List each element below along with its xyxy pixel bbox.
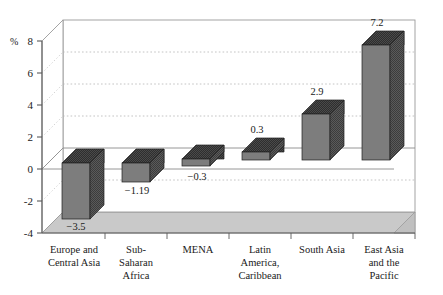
svg-text:East Asia: East Asia xyxy=(364,244,404,255)
bar-east-asia-pacific[interactable] xyxy=(362,31,404,160)
svg-text:South Asia: South Asia xyxy=(299,244,345,255)
y-tick-label: -4 xyxy=(24,227,34,239)
bar-value-label: −1.19 xyxy=(125,185,149,196)
y-tick-label: 4 xyxy=(28,99,34,111)
svg-text:Africa: Africa xyxy=(123,270,150,281)
svg-text:Caribbean: Caribbean xyxy=(238,270,282,281)
svg-text:Central Asia: Central Asia xyxy=(48,257,101,268)
bar-value-label: 0.3 xyxy=(250,124,263,135)
x-category-label-europe-central-asia: Europe and Central Asia xyxy=(48,244,101,268)
bar-south-asia[interactable] xyxy=(302,100,344,160)
x-category-label-latin-america-caribbean: Latin America, Caribbean xyxy=(238,244,282,281)
y-axis-unit-label: % xyxy=(10,36,18,47)
svg-text:America,: America, xyxy=(241,257,280,268)
bar-value-label: −3.5 xyxy=(66,221,85,232)
x-axis xyxy=(42,233,415,239)
y-tick-label: 6 xyxy=(28,67,34,79)
plot-floor xyxy=(42,212,415,233)
y-tick-label: 0 xyxy=(28,163,34,175)
x-category-labels: Europe and Central Asia Sub- Saharan Afr… xyxy=(48,244,404,281)
chart-svg: 8 6 4 2 0 -2 -4 % −3.5 −1.19 xyxy=(0,0,443,295)
y-tick-labels: 8 6 4 2 0 -2 -4 xyxy=(24,35,34,239)
svg-text:Sub-: Sub- xyxy=(126,244,146,255)
bar-value-label: 7.2 xyxy=(370,17,383,28)
svg-text:Pacific: Pacific xyxy=(369,270,398,281)
bar-value-label: 2.9 xyxy=(310,86,323,97)
y-tick-label: 8 xyxy=(28,35,34,47)
svg-text:and the: and the xyxy=(369,257,400,268)
bar-europe-central-asia[interactable] xyxy=(62,149,104,219)
svg-text:Saharan: Saharan xyxy=(119,257,154,268)
svg-text:Europe and: Europe and xyxy=(50,244,99,255)
y-tick-label: 2 xyxy=(28,131,34,143)
bar-chart: 8 6 4 2 0 -2 -4 % −3.5 −1.19 xyxy=(0,0,443,295)
svg-text:Latin: Latin xyxy=(249,244,272,255)
bar-value-label: −0.3 xyxy=(187,171,206,182)
y-tick-label: -2 xyxy=(24,195,33,207)
x-category-label-east-asia-pacific: East Asia and the Pacific xyxy=(364,244,404,281)
y-axis xyxy=(37,41,42,233)
x-category-label-south-asia: South Asia xyxy=(299,244,345,255)
svg-text:MENA: MENA xyxy=(183,244,214,255)
x-category-label-sub-saharan-africa: Sub- Saharan Africa xyxy=(119,244,154,281)
x-category-label-mena: MENA xyxy=(183,244,214,255)
